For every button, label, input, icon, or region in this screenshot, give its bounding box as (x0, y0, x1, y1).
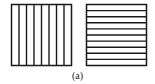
horizontal-stripes-panel (87, 5, 147, 66)
vertical-stripes-panel (12, 5, 72, 66)
figure-caption: (a) (0, 70, 155, 81)
